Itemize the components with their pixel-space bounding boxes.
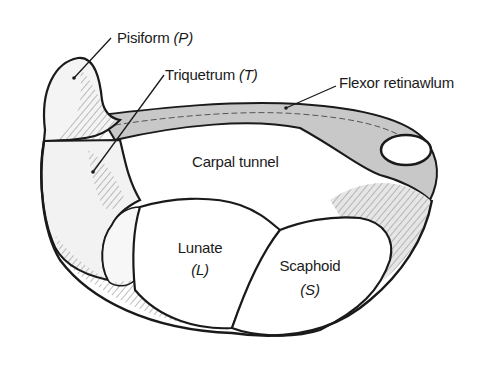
triquetrum-abbr: (T) [239,66,258,83]
label-triquetrum: Triquetrum (T) [165,67,258,82]
scaphoid-abbr: (S) [265,282,355,297]
label-pisiform: Pisiform (P) [117,30,193,45]
pisiform-abbr: (P) [174,29,193,46]
label-scaphoid: Scaphoid (S) [265,258,355,297]
triquetrum-name: Triquetrum [165,66,235,83]
label-carpal-tunnel: Carpal tunnel [192,154,279,169]
flexor-retinaculum-name: Flexor retinawlum [339,74,454,91]
lunate-abbr: (L) [160,262,240,277]
carpal-tunnel-name: Carpal tunnel [192,153,279,170]
label-lunate: Lunate (L) [160,240,240,277]
pisiform-bone [44,58,120,141]
carpal-tunnel-diagram: Pisiform (P) Triquetrum (T) Flexor retin… [0,0,502,373]
anatomy-illustration [0,0,502,373]
pisiform-name: Pisiform [117,29,170,46]
lunate-name: Lunate [160,240,240,255]
scaphoid-name: Scaphoid [265,258,355,273]
label-flexor-retinaculum: Flexor retinawlum [339,75,454,90]
